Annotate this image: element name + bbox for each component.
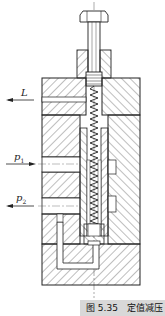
spring-seat-nut bbox=[86, 72, 102, 86]
port-L-arrow bbox=[6, 98, 34, 102]
label-p2: p2 bbox=[16, 193, 26, 205]
figure-caption: 图 5.35 定值减压 bbox=[80, 300, 165, 316]
label-L: L bbox=[21, 88, 28, 98]
label-p1: p1 bbox=[14, 152, 24, 164]
valve-section-drawing bbox=[0, 0, 165, 316]
